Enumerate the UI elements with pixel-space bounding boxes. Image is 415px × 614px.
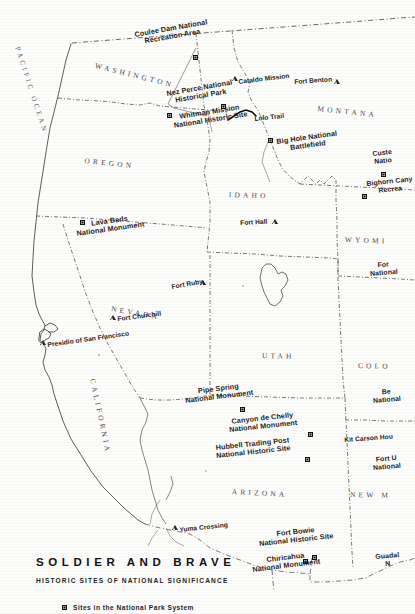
legend-label: Sites in the National Park System — [73, 604, 194, 611]
square-marker-icon — [62, 605, 67, 610]
map-canvas: PACIFIC OCEAN WASHINGTON OREGON MONTANA … — [0, 0, 415, 614]
map-subtitle: HISTORIC SITES OF NATIONAL SIGNIFICANCE — [36, 577, 266, 584]
title-block: SOLDIER AND BRAVE HISTORIC SITES OF NATI… — [36, 556, 266, 584]
map-title: SOLDIER AND BRAVE — [36, 556, 266, 568]
legend: Sites in the National Park System — [62, 604, 194, 611]
map-linework — [0, 0, 415, 614]
